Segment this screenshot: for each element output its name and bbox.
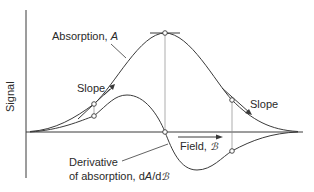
derivative-label-text: of absorption, d	[69, 170, 145, 182]
absorption-derivative-diagram: Signal Absorption, A Slope Slope Field, …	[0, 0, 314, 192]
marker-absorption-left	[92, 102, 97, 107]
absorption-label-text: Absorption,	[52, 30, 111, 42]
slope-right-label: Slope	[250, 98, 278, 110]
marker-derivative-left	[92, 114, 97, 119]
derivative-slash-d: /d	[152, 170, 161, 182]
field-symbol: ℬ	[210, 141, 218, 152]
diagram-canvas	[0, 0, 314, 192]
derivative-symbol-b: ℬ	[161, 171, 169, 182]
absorption-symbol: A	[111, 30, 118, 42]
derivative-label-line2: of absorption, dA/dℬ	[69, 170, 169, 183]
field-label-text: Field,	[180, 140, 210, 152]
absorption-label-pointer	[111, 44, 126, 58]
marker-absorption-right	[230, 98, 235, 103]
absorption-curve	[30, 33, 298, 132]
right-slope-tangent	[222, 88, 250, 113]
marker-absorption-peak	[163, 31, 168, 36]
marker-derivative-right	[230, 149, 235, 154]
derivative-label-line1: Derivative	[69, 156, 118, 168]
field-arrowhead-icon	[216, 135, 223, 140]
field-axis-label: Field, ℬ	[180, 140, 218, 153]
absorption-label: Absorption, A	[52, 30, 118, 42]
derivative-label-pointer	[122, 144, 168, 161]
marker-derivative-zero	[163, 130, 168, 135]
slope-left-label: Slope	[77, 82, 105, 94]
y-axis-label: Signal	[4, 81, 16, 112]
